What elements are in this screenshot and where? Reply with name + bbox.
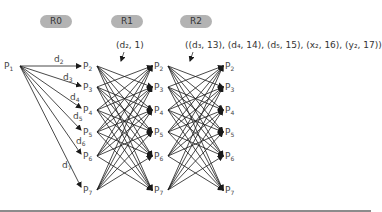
node-p6-col2: P6	[154, 151, 163, 164]
edge-label-d4: d4	[70, 92, 80, 105]
node-p6-col1: P6	[83, 151, 92, 164]
node-p4-col3: P4	[225, 105, 234, 118]
node-p3-col2: P3	[154, 82, 163, 95]
node-p2-col3: P2	[225, 61, 234, 74]
node-p2-col1: P2	[83, 61, 92, 74]
bottom-divider	[0, 210, 371, 212]
edge-label-d3: d3	[63, 72, 73, 85]
node-p1: P1	[4, 61, 13, 74]
edge-label-d5: d5	[73, 111, 83, 124]
node-p3-col3: P3	[225, 82, 234, 95]
edge-label-d6: d6	[76, 136, 86, 149]
node-p2-col2: P2	[154, 61, 163, 74]
node-p4-col2: P4	[154, 105, 163, 118]
node-p5-col2: P5	[154, 127, 163, 140]
node-p7-col2: P7	[154, 185, 163, 198]
node-p4-col1: P4	[83, 105, 92, 118]
edge-label-d7: d7	[62, 160, 72, 173]
node-p6-col3: P6	[225, 151, 234, 164]
node-p7-col3: P7	[225, 185, 234, 198]
node-p5-col3: P5	[225, 127, 234, 140]
edge-label-d2: d2	[54, 54, 64, 67]
node-p7-col1: P7	[83, 185, 92, 198]
node-p3-col1: P3	[83, 82, 92, 95]
